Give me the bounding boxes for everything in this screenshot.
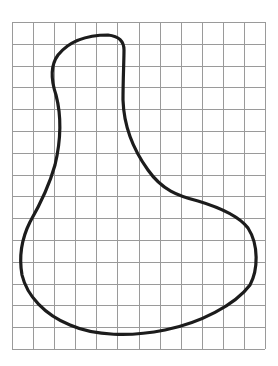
grid-shape-diagram [0,0,278,366]
